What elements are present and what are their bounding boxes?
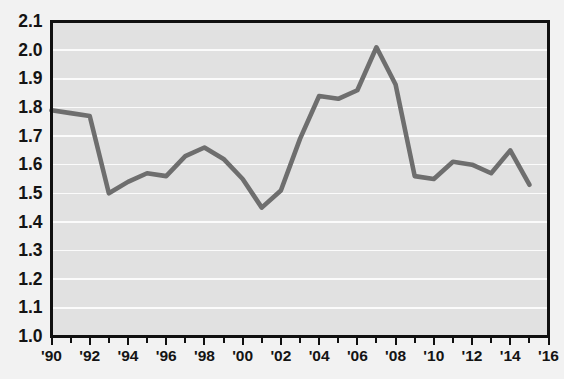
x-axis-tick-label: '12 — [462, 347, 483, 364]
x-axis-tick-label: '96 — [156, 347, 177, 364]
x-axis-tick-label: '90 — [41, 347, 62, 364]
x-axis-tick-label: '06 — [347, 347, 368, 364]
x-axis-tick-label: '92 — [79, 347, 100, 364]
x-axis-tick-label: '04 — [309, 347, 330, 364]
y-axis-tick-label: 1.5 — [18, 183, 43, 203]
x-axis-tick-label: '98 — [194, 347, 215, 364]
y-axis-tick-label: 2.1 — [18, 11, 43, 31]
x-axis-tick-label: '02 — [270, 347, 291, 364]
y-axis-tick-label: 1.8 — [18, 97, 43, 117]
x-axis-tick-label: '10 — [423, 347, 444, 364]
x-axis-tick-label: '08 — [385, 347, 406, 364]
x-axis-tick-label: '94 — [117, 347, 138, 364]
y-axis-tick-label: 1.3 — [18, 240, 43, 260]
x-axis-tick-label: '14 — [500, 347, 521, 364]
y-axis-tick-label: 1.6 — [18, 154, 43, 174]
y-axis-tick-label: 1.1 — [18, 297, 43, 317]
y-axis-tick-label: 1.7 — [18, 126, 42, 146]
y-axis-tick-label: 1.4 — [18, 212, 43, 232]
y-axis-tick-label: 1.0 — [18, 326, 43, 346]
chart-container: 2.12.01.91.81.71.61.51.41.31.21.11.0 '90… — [0, 0, 564, 379]
y-axis-tick-label: 2.0 — [18, 40, 43, 60]
x-axis-tick-label: '16 — [538, 347, 559, 364]
line-chart: 2.12.01.91.81.71.61.51.41.31.21.11.0 '90… — [0, 0, 564, 379]
x-axis-tick-label: '00 — [232, 347, 253, 364]
y-axis-tick-label: 1.9 — [18, 68, 43, 88]
y-axis-tick-label: 1.2 — [18, 269, 43, 289]
plot-area-background — [52, 22, 549, 337]
